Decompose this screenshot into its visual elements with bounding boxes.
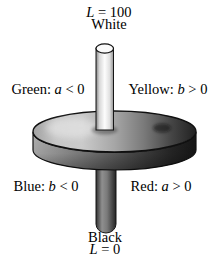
cielab-spindle-diagram: L = 100 White Green: a < 0 Yellow: b > 0… (0, 0, 222, 280)
axis-name: Yellow: (129, 81, 178, 97)
value-text: = 0 (98, 241, 121, 257)
lightness-min-value: L = 0 (88, 243, 122, 255)
blue-axis-label: Blue: b < 0 (14, 179, 79, 193)
axis-condition: > 0 (169, 178, 192, 194)
disk-face-highlight (46, 118, 98, 138)
axis-condition: < 0 (56, 178, 79, 194)
axis-condition: < 0 (62, 81, 85, 97)
green-axis-label: Green: a < 0 (11, 82, 84, 96)
spindle-top-cap (96, 44, 114, 53)
axis-name: Red: (131, 178, 162, 194)
white-pole-label: L = 100 White (86, 7, 131, 30)
white-label: White (86, 19, 131, 31)
axis-name: Green: (11, 81, 54, 97)
axis-name: Blue: (14, 178, 49, 194)
variable-L: L (90, 241, 98, 257)
axis-condition: > 0 (185, 81, 208, 97)
disk-face-smudge (153, 124, 171, 133)
red-axis-label: Red: a > 0 (131, 179, 192, 193)
black-pole-label: Black L = 0 (88, 231, 122, 255)
yellow-axis-label: Yellow: b > 0 (129, 82, 208, 96)
spindle-top-rod (96, 48, 114, 130)
